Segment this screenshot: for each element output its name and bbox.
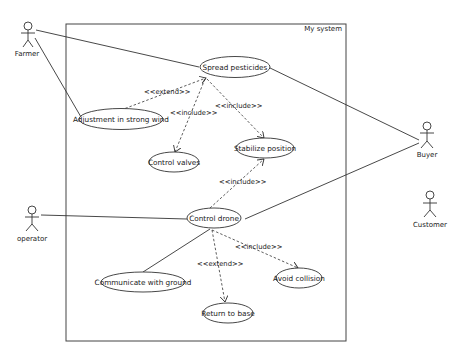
use-case-adjustment-strong-wind[interactable]: Adjustment in strong wind	[73, 109, 169, 130]
label-extend-return: <<extend>>	[197, 260, 243, 268]
use-case-control-valves[interactable]: Control valves	[148, 152, 200, 172]
label-include-valves: <<include>>	[170, 109, 217, 117]
actor-label: Buyer	[417, 151, 438, 159]
association-operator-drone	[41, 215, 187, 219]
association-farmer-spread	[36, 30, 199, 67]
actor-label: Customer	[413, 221, 447, 229]
use-case-label: Adjustment in strong wind	[73, 115, 169, 124]
label-extend-adjust: <<extend>>	[144, 88, 190, 96]
actor-label: operator	[17, 235, 47, 243]
use-case-label: Communicate with ground	[95, 278, 192, 287]
use-case-avoid-collision[interactable]: Avoid collision	[273, 268, 325, 288]
association-farmer-adjust	[35, 38, 81, 117]
use-case-label: Control valves	[148, 158, 200, 167]
stick-figure-icon	[420, 122, 434, 148]
label-include-avoid: <<include>>	[235, 243, 282, 251]
association-buyer-spread	[268, 67, 419, 140]
use-case-label: Control drone	[189, 214, 239, 223]
system-label: My system	[304, 25, 342, 33]
use-case-label: Spread pesticides	[203, 63, 268, 72]
use-case-diagram: My system <<extend>> <<include>> <<inclu…	[0, 0, 466, 358]
actor-buyer[interactable]: Buyer	[417, 122, 438, 159]
actor-label: Farmer	[15, 50, 40, 58]
label-include-drone-stabilize: <<include>>	[219, 178, 266, 186]
use-case-label: Return to base	[201, 309, 255, 318]
label-include-stabilize: <<include>>	[215, 102, 262, 110]
actor-operator[interactable]: operator	[17, 206, 47, 243]
use-case-communicate-ground[interactable]: Communicate with ground	[95, 272, 192, 292]
stick-figure-icon	[25, 206, 39, 231]
use-case-label: Stabilize position	[234, 144, 296, 153]
use-case-stabilize-position[interactable]: Stabilize position	[234, 138, 296, 158]
stick-figure-icon	[423, 191, 437, 217]
use-case-control-drone[interactable]: Control drone	[187, 208, 241, 228]
use-case-spread-pesticides[interactable]: Spread pesticides	[200, 57, 270, 78]
use-case-return-to-base[interactable]: Return to base	[201, 303, 255, 323]
use-case-label: Avoid collision	[273, 274, 325, 283]
actor-customer[interactable]: Customer	[413, 191, 447, 229]
stick-figure-icon	[21, 22, 35, 47]
